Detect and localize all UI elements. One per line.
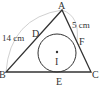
label-b: B [0,69,6,80]
incenter-point [56,51,58,53]
label-af-length: 5 cm [72,20,90,30]
label-c: C [92,69,99,80]
label-f: F [79,36,85,47]
label-e: E [56,76,62,87]
label-ab-length: 14 cm [2,33,24,43]
triangle-incircle-diagram: A B C D E F I 14 cm 5 cm [0,0,100,88]
label-d: D [32,28,39,39]
label-i: I [55,56,58,67]
label-a: A [58,0,66,11]
diagram-canvas: A B C D E F I 14 cm 5 cm [0,0,100,88]
